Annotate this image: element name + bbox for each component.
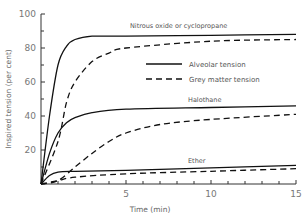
y-tick-label: 40	[25, 111, 37, 121]
legend: Alveolar tension Grey matter tension	[146, 61, 260, 84]
y-tick-label: 20	[25, 145, 37, 155]
x-tick-label: 15	[290, 189, 301, 199]
tension-chart: 20406080100 51015 Inspired tension (per …	[0, 0, 308, 221]
x-axis-title: Time (min)	[129, 205, 171, 214]
annotation-halothane: Halothane	[188, 96, 221, 104]
x-tick-label: 5	[123, 189, 129, 199]
y-axis: 20406080100	[19, 9, 45, 184]
series-line-4	[41, 165, 296, 184]
plot-area	[41, 34, 296, 184]
y-axis-title: Inspired tension (per cent)	[4, 49, 13, 149]
annotation-nitrous: Nitrous oxide or cyclopropane	[130, 22, 227, 30]
y-tick-label: 100	[19, 9, 36, 19]
series-line-3	[41, 114, 296, 184]
legend-label-alveolar: Alveolar tension	[189, 61, 246, 69]
y-tick-label: 60	[25, 77, 37, 87]
y-tick-label: 80	[25, 43, 37, 53]
series-line-1	[41, 40, 296, 185]
legend-label-grey-matter: Grey matter tension	[189, 76, 260, 84]
series-line-0	[41, 34, 296, 184]
x-axis: 51015	[41, 180, 302, 199]
x-tick-label: 10	[205, 189, 217, 199]
series-line-2	[41, 106, 296, 184]
annotation-ether: Ether	[188, 157, 206, 165]
